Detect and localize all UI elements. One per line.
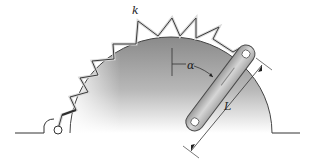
label-spring-k: k: [132, 4, 139, 17]
label-angle-alpha: α: [187, 59, 195, 72]
mechanism-diagram: k α L: [0, 0, 312, 163]
label-length-L: L: [223, 100, 231, 113]
left-pin: [54, 126, 62, 134]
diagram-canvas: k α L: [0, 0, 312, 163]
